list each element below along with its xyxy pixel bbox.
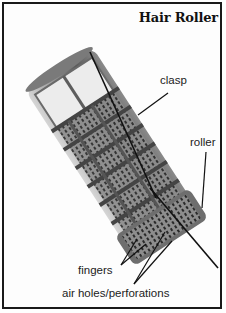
label-clasp: clasp [160,74,187,86]
label-roller: roller [190,136,216,148]
label-air-holes: air holes/perforations [62,287,169,299]
roller-leader-line [202,152,206,208]
hair-roller-illustration [0,0,226,313]
label-fingers: fingers [78,264,113,276]
clasp-leader-line [138,93,168,115]
diagram-title: Hair Roller [139,10,218,25]
